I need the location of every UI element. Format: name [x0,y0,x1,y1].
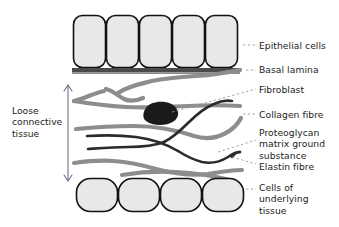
label-cells-underlying-line1: Cells of [259,182,309,193]
label-loose-line3: tissue [12,128,62,139]
label-collagen-fibre: Collagen fibre [259,109,324,120]
epithelial-cell [140,16,172,68]
label-fibroblast: Fibroblast [259,84,304,95]
elastin-fibre [178,151,240,163]
leader-line-proteoglycan [218,140,256,152]
label-epithelial-cells: Epithelial cells [259,40,326,51]
label-proteoglycan-line1: Proteoglycan [259,127,325,138]
label-elastin-fibre: Elastin fibre [259,161,314,172]
loose-tissue-span-arrow [64,85,72,181]
epithelial-cell [74,16,106,68]
label-underlying-cells-block: Cells of underlying tissue [259,182,309,216]
label-loose-line1: Loose [12,105,62,116]
label-proteoglycan-line2: matrix ground [259,138,325,149]
label-proteoglycan-line3: substance [259,150,325,161]
connective-tissue-diagram: Epithelial cells Basal lamina Fibroblast… [0,0,339,227]
label-loose-line2: connective [12,116,62,127]
collagen-fibre-group [74,70,242,180]
fibroblast-cell [143,102,178,125]
underlying-cell [203,179,244,212]
underlying-cell [161,179,202,212]
label-proteoglycan-block: Proteoglycan matrix ground substance [259,127,325,161]
epithelial-cell [107,16,139,68]
label-cells-underlying-line2: underlying [259,193,309,204]
underlying-cell [77,179,118,212]
label-basal-lamina: Basal lamina [259,64,319,75]
epithelial-cell-row [74,16,238,68]
collagen-fibre [74,161,160,170]
label-cells-underlying-line3: tissue [259,205,309,216]
leader-line-elastin [232,157,256,164]
epithelial-cell [206,16,238,68]
underlying-cell [119,179,160,212]
collagen-fibre [74,91,104,101]
epithelial-cell [173,16,205,68]
label-loose-connective-tissue-block: Loose connective tissue [12,105,62,139]
leader-line-fibroblast [172,89,256,112]
elastin-fibre [88,142,164,149]
underlying-cell-row [77,179,244,212]
